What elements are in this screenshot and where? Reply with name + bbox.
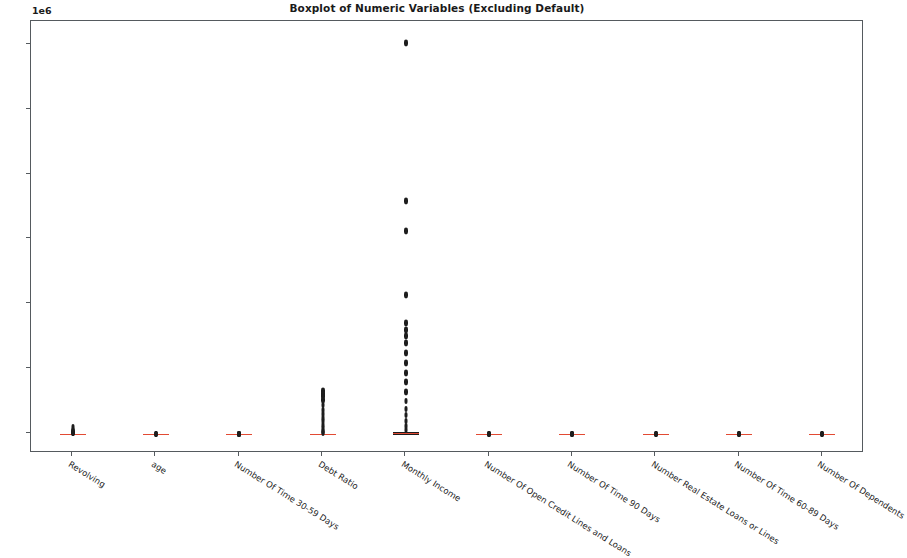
x-tick-mark xyxy=(654,452,655,456)
box-outlier-marker xyxy=(404,320,408,327)
box-outlier-marker xyxy=(404,412,407,418)
box-outlier-marker xyxy=(321,387,325,394)
x-tick-mark xyxy=(821,452,822,456)
x-tick-label: Number Of Dependents xyxy=(816,459,907,521)
x-tick-label: Number Of Time 90 Days xyxy=(566,459,662,524)
y-tick-mark xyxy=(26,108,30,109)
box-outlier-marker xyxy=(404,406,407,412)
box-outlier-marker xyxy=(404,339,408,346)
x-tick-mark xyxy=(154,452,155,456)
x-tick-label: Monthly Income xyxy=(400,459,463,504)
box-outlier-marker xyxy=(404,369,408,376)
box-outlier-marker xyxy=(404,398,407,404)
x-tick-mark xyxy=(321,452,322,456)
box-outlier-marker xyxy=(404,389,408,396)
box-outlier-marker xyxy=(238,431,241,437)
box-outlier-marker xyxy=(404,350,408,357)
box-outlier-marker xyxy=(404,291,408,298)
x-tick-label: Debt Ratio xyxy=(316,459,359,491)
box-median xyxy=(393,433,419,434)
box-outlier-marker xyxy=(71,424,74,430)
x-tick-label: Number Real Estate Loans or Lines xyxy=(649,459,780,546)
y-tick-mark xyxy=(26,173,30,174)
x-tick-mark xyxy=(238,452,239,456)
box-outlier-marker xyxy=(571,431,574,437)
box-outlier-marker xyxy=(404,333,408,340)
x-tick-mark xyxy=(571,452,572,456)
box-outlier-marker xyxy=(654,431,657,437)
box-outlier-marker xyxy=(488,431,491,437)
box-outlier-marker xyxy=(404,228,408,235)
plot-axes xyxy=(30,20,863,452)
y-axis-offset-label: 1e6 xyxy=(32,5,52,16)
page-title: Boxplot of Numeric Variables (Excluding … xyxy=(0,2,874,14)
plot-surface xyxy=(31,21,862,451)
box-outlier-marker xyxy=(404,378,408,385)
box-outlier-marker xyxy=(738,431,741,437)
y-tick-mark xyxy=(26,302,30,303)
y-tick-mark xyxy=(26,237,30,238)
box-outlier-marker xyxy=(404,40,408,47)
x-tick-mark xyxy=(738,452,739,456)
y-tick-mark xyxy=(26,432,30,433)
x-tick-mark xyxy=(71,452,72,456)
box-outlier-marker xyxy=(154,431,157,437)
box-outlier-marker xyxy=(404,326,408,333)
box-outlier-marker xyxy=(404,197,408,204)
x-tick-label: Number Of Open Credit Lines and Loans xyxy=(483,459,634,558)
box-outlier-marker xyxy=(404,418,407,424)
y-tick-mark xyxy=(26,43,30,44)
box-outlier-marker xyxy=(821,431,824,437)
x-tick-label: Revolving xyxy=(66,459,107,489)
x-tick-mark xyxy=(488,452,489,456)
box-outlier-marker xyxy=(404,360,408,367)
x-tick-mark xyxy=(404,452,405,456)
x-tick-label: age xyxy=(150,459,169,476)
y-tick-mark xyxy=(26,367,30,368)
